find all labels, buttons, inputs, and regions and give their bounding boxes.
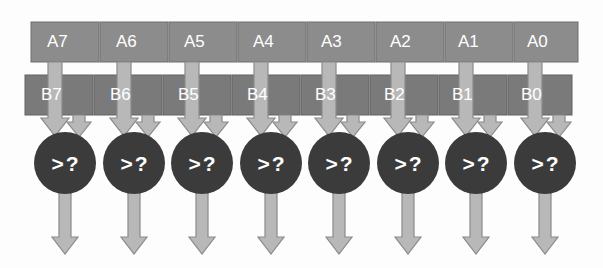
a-cell-label: A0	[527, 32, 548, 51]
comparator-output-arrow	[463, 188, 489, 254]
a-cell-label: A5	[184, 32, 205, 51]
b-cell-label: B0	[521, 85, 542, 104]
b-cell-label: B2	[384, 85, 405, 104]
comparator-output-arrow	[326, 188, 352, 254]
comparator-output-arrow	[395, 188, 421, 254]
a-cell-label: A7	[47, 32, 68, 51]
comparator-label: >?	[531, 152, 560, 175]
a-cell-label: A6	[116, 32, 137, 51]
output-arrows	[52, 188, 558, 254]
diagram-canvas: A7 A6 A5 A4 A3 A2 A1 A0 B7 B6 B5 B4 B3 B…	[0, 0, 603, 268]
comparator-label: >?	[120, 152, 149, 175]
comparator-label: >?	[462, 152, 491, 175]
operand-b-bar	[25, 75, 572, 115]
b-cell-label: B3	[315, 85, 336, 104]
comparator-output-arrow	[52, 188, 78, 254]
a-cell-label: A3	[321, 32, 342, 51]
operand-a-bar	[31, 22, 578, 62]
a-cell-6[interactable]	[445, 22, 513, 62]
comparator-nodes	[34, 132, 576, 194]
comparator-label: >?	[257, 152, 286, 175]
comparator-labels: >? >? >? >? >? >? >? >?	[51, 152, 560, 175]
comparator-output-arrow	[121, 188, 147, 254]
b-cell-label: B6	[110, 85, 131, 104]
b-cell-label: B7	[41, 85, 62, 104]
b-cell-label: B5	[178, 85, 199, 104]
comparator-output-arrow	[189, 188, 215, 254]
b-cell-label: B1	[452, 85, 473, 104]
a-cell-label: A4	[253, 32, 274, 51]
comparator-output-arrow	[532, 188, 558, 254]
a-cell-label: A1	[458, 32, 479, 51]
comparator-label: >?	[51, 152, 80, 175]
comparator-diagram-svg: A7 A6 A5 A4 A3 A2 A1 A0 B7 B6 B5 B4 B3 B…	[0, 0, 603, 268]
a-cell-label: A2	[390, 32, 411, 51]
b-cell-label: B4	[247, 85, 268, 104]
comparator-label: >?	[188, 152, 217, 175]
comparator-output-arrow	[258, 188, 284, 254]
comparator-label: >?	[325, 152, 354, 175]
comparator-label: >?	[394, 152, 423, 175]
